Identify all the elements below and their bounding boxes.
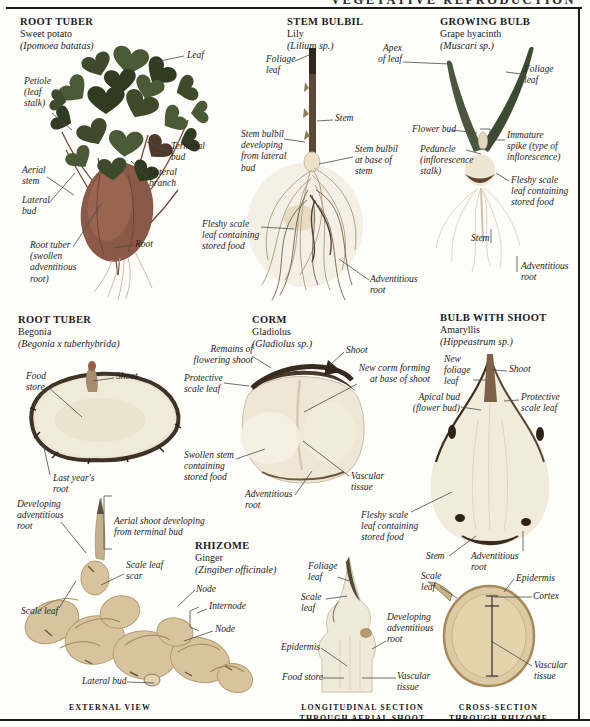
label-vascular-tissue: Vascular tissue — [351, 471, 384, 493]
section-latin-name: (Begonia x tuberhybrida) — [18, 338, 119, 350]
label-internode: Internode — [209, 601, 246, 612]
label-lateral-bud: Lateral bud — [82, 676, 127, 687]
section-title: STEM BULBIL — [287, 16, 363, 28]
label-aerial-stem: Aerial stem — [22, 165, 46, 187]
section-title: RHIZOME — [195, 540, 276, 552]
label-new-corm: New corm forming at base of shoot — [352, 363, 430, 385]
label-node-lower: Node — [215, 624, 235, 635]
label-lateral-bud: Lateral bud — [22, 195, 50, 217]
caption-cross-section: CROSS-SECTION THROUGH RHIZOME — [426, 702, 571, 725]
section-heading-stem-bulbil: STEM BULBIL Lily (Lilium sp.) — [287, 16, 363, 51]
begonia-photo — [30, 361, 181, 464]
label-scale-leaf: Scale leaf — [301, 592, 322, 614]
section-latin-name: (Hippeastrum sp.) — [440, 336, 547, 348]
label-lateral-branch: Lateral branch — [149, 167, 177, 189]
section-latin-name: (Lilium sp.) — [287, 40, 363, 52]
label-epidermis: Epidermis — [281, 642, 320, 653]
label-shoot: Shoot — [116, 371, 138, 382]
section-latin-name: (Gladiolus sp.) — [252, 338, 312, 350]
label-aerial-shoot: Aerial shoot developing from terminal bu… — [114, 516, 205, 538]
section-common-name: Amaryllis — [440, 324, 547, 336]
label-apex-of-leaf: Apex of leaf — [370, 43, 402, 65]
section-heading-corm: CORM Gladiolus (Gladiolus sp.) — [252, 314, 312, 349]
label-shoot: Shoot — [509, 364, 531, 375]
label-leaf: Leaf — [187, 50, 204, 61]
label-food-store: Food store — [282, 672, 323, 683]
section-heading-root-tuber-begonia: ROOT TUBER Begonia (Begonia x tuberhybri… — [18, 314, 119, 349]
label-protective-scale-leaf: Protective scale leaf — [184, 373, 223, 395]
label-stem: Stem — [471, 233, 489, 244]
label-fleshy-scale-leaf: Fleshy scale leaf containing stored food — [511, 175, 568, 209]
section-common-name: Gladiolus — [252, 326, 312, 338]
label-developing-adventitious-root: Developing adventitious root — [387, 612, 433, 646]
label-stem: Stem — [426, 551, 444, 562]
section-title: BULB WITH SHOOT — [440, 312, 547, 324]
section-title: ROOT TUBER — [18, 314, 119, 326]
label-scale-leaf: Scale leaf — [421, 571, 442, 593]
section-common-name: Lily — [287, 28, 363, 40]
label-protective-scale-leaf: Protective scale leaf — [521, 392, 560, 414]
label-petiole: Petiole (leaf stalk) — [24, 76, 51, 110]
label-fleshy-scale-leaf: Fleshy scale leaf containing stored food — [202, 219, 259, 253]
label-swollen-stem: Swollen stem containing stored food — [184, 450, 234, 484]
label-foliage-leaf: Foliage leaf — [524, 64, 554, 86]
label-scale-leaf: Scale leaf — [21, 606, 58, 617]
label-remains-flowering-shoot: Remains of flowering shoot — [193, 344, 253, 366]
label-cortex: Cortex — [533, 591, 559, 602]
section-latin-name: (Muscari sp.) — [440, 40, 530, 52]
label-stem-bulbil-base: Stem bulbil at base of stem — [355, 144, 398, 178]
caption-external-view: EXTERNAL VIEW — [50, 702, 170, 713]
label-food-store: Food store — [26, 371, 46, 393]
section-common-name: Begonia — [18, 326, 119, 338]
label-vascular-tissue: Vascular tissue — [534, 660, 567, 682]
label-adventitious-root: Adventitious root — [370, 274, 418, 296]
gladiolus-corm-photo — [240, 360, 364, 483]
section-heading-growing-bulb: GROWING BULB Grape hyacinth (Muscari sp.… — [440, 16, 530, 51]
label-stem: Stem — [335, 113, 353, 124]
label-adventitious-root: Adventitious root — [471, 551, 519, 573]
label-peduncle: Peduncle (inflorescence stalk) — [420, 144, 473, 178]
section-common-name: Sweet potato — [20, 28, 94, 40]
label-foliage-leaf: Foliage leaf — [308, 561, 338, 583]
section-heading-bulb-with-shoot: BULB WITH SHOOT Amaryllis (Hippeastrum s… — [440, 312, 547, 347]
illustrations — [0, 0, 590, 727]
label-scale-leaf-scar: Scale leaf scar — [126, 560, 163, 582]
section-common-name: Grape hyacinth — [440, 28, 530, 40]
label-apical-bud: Apical bud (flower bud) — [408, 392, 460, 414]
label-vascular-tissue: Vascular tissue — [397, 671, 430, 693]
label-last-years-root: Last year's root — [53, 473, 94, 495]
label-node-upper: Node — [196, 584, 216, 595]
section-latin-name: (Ipomoea batatas) — [20, 40, 94, 52]
label-foliage-leaf: Foliage leaf — [266, 54, 296, 76]
label-adventitious-root: Adventitious root — [521, 261, 569, 283]
section-common-name: Ginger — [195, 552, 276, 564]
section-heading-root-tuber-sweet-potato: ROOT TUBER Sweet potato (Ipomoea batatas… — [20, 16, 94, 51]
label-stem-bulbil-lateral: Stem bulbil developing from lateral bud — [241, 129, 286, 174]
label-shoot: Shoot — [346, 345, 368, 356]
label-immature-spike: Immature spike (type of inflorescence) — [507, 130, 560, 164]
caption-longitudinal-section: LONGITUDINAL SECTION THROUGH AERIAL SHOO… — [290, 702, 435, 725]
section-title: ROOT TUBER — [20, 16, 94, 28]
label-adventitious-root: Adventitious root — [245, 489, 293, 511]
cross-section-photo — [428, 582, 534, 686]
lily-photo — [247, 48, 363, 300]
section-heading-rhizome: RHIZOME Ginger (Zingiber officinale) — [195, 540, 276, 575]
label-terminal-bud: Terminal bud — [171, 141, 205, 163]
section-title: GROWING BULB — [440, 16, 530, 28]
label-new-foliage-leaf: New foliage leaf — [444, 354, 470, 388]
label-flower-bud: Flower bud — [412, 124, 456, 135]
book-page: VEGETATIVE REPRODUCTION — [0, 0, 590, 727]
label-root: Root — [135, 239, 153, 250]
label-root-tuber: Root tuber (swollen adventitious root) — [30, 240, 76, 285]
section-latin-name: (Zingiber officinale) — [195, 564, 276, 576]
label-epidermis: Epidermis — [516, 573, 555, 584]
label-fleshy-scale-leaf: Fleshy scale leaf containing stored food — [361, 510, 418, 544]
section-title: CORM — [252, 314, 312, 326]
label-developing-adventitious-root: Developing adventitious root — [17, 499, 63, 533]
